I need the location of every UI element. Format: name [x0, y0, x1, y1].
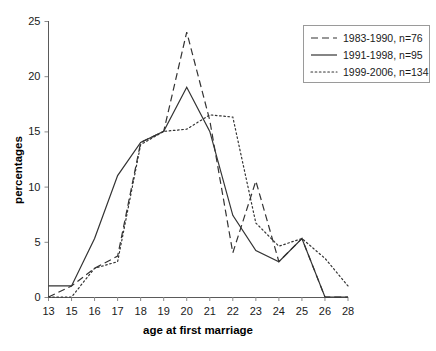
- line-chart: 0510152025 1315161718192021222324252628 …: [0, 0, 436, 351]
- x-tick-label: 28: [342, 305, 354, 317]
- x-tick-label: 13: [42, 305, 54, 317]
- y-axis-ticks: [45, 22, 49, 298]
- chart-canvas: 0510152025 1315161718192021222324252628 …: [0, 0, 436, 351]
- x-tick-label: 15: [65, 305, 77, 317]
- y-tick-label: 25: [28, 15, 40, 27]
- legend-label: 1991-1998, n=95: [343, 49, 423, 61]
- y-tick-label: 5: [34, 236, 40, 248]
- y-tick-label: 10: [28, 181, 40, 193]
- x-tick-label: 23: [250, 305, 262, 317]
- x-tick-label: 26: [319, 305, 331, 317]
- series-line: [49, 87, 349, 297]
- x-tick-label: 20: [181, 305, 193, 317]
- x-tick-label: 22: [227, 305, 239, 317]
- x-tick-label: 25: [296, 305, 308, 317]
- y-axis-tick-labels: 0510152025: [28, 15, 40, 303]
- y-tick-label: 0: [34, 291, 40, 303]
- x-tick-label: 24: [273, 305, 285, 317]
- x-axis-title: age at first marriage: [143, 324, 253, 336]
- x-tick-label: 19: [158, 305, 170, 317]
- legend: 1983-1990, n=761991-1998, n=951999-2006,…: [304, 26, 430, 83]
- legend-label: 1999-2006, n=134: [343, 66, 429, 78]
- x-tick-label: 21: [204, 305, 216, 317]
- y-tick-label: 20: [28, 70, 40, 82]
- series-line: [49, 115, 349, 297]
- x-tick-label: 18: [135, 305, 147, 317]
- y-tick-label: 15: [28, 125, 40, 137]
- x-tick-label: 17: [111, 305, 123, 317]
- y-axis-title: percentages: [12, 136, 24, 204]
- x-tick-label: 16: [88, 305, 100, 317]
- legend-label: 1983-1990, n=76: [343, 32, 423, 44]
- x-axis-tick-labels: 1315161718192021222324252628: [42, 305, 354, 317]
